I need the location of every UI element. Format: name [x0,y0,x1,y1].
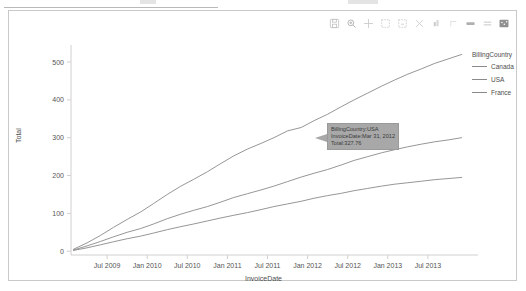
plot-area[interactable]: 0100200300400500Jul 2009Jan 2010Jul 2010… [9,33,518,281]
top-edge-ghost-left [140,0,156,4]
tooltip-line-total: Total:327.76 [331,140,395,147]
legend-label-france: France [491,89,511,96]
zoom-in-icon[interactable] [345,17,357,29]
legend[interactable]: BillingCountry Canada USA France [472,51,526,101]
series-line-usa[interactable] [73,54,461,249]
x-tick-label: Jul 2011 [255,262,281,269]
legend-item-france[interactable]: France [472,88,526,96]
y-axis-title: Total [15,128,22,143]
x-tick-label: Jul 2012 [334,262,361,269]
legend-swatch-usa [472,79,487,80]
logo-icon[interactable] [498,17,510,29]
legend-title: BillingCountry [472,51,526,58]
hover-compare-icon[interactable] [464,17,476,29]
tooltip-line-country: BillingCountry:USA [331,126,395,133]
move-icon[interactable] [362,17,374,29]
x-tick-label: Jan 2013 [373,262,402,269]
y-tick-label: 300 [52,134,64,141]
autoscale-icon[interactable] [430,17,442,29]
y-tick-label: 100 [52,210,64,217]
box-select-icon[interactable] [379,17,391,29]
y-tick-label: 200 [52,172,64,179]
tooltip-line-date: InvoiceDate:Mar 31, 2012 [331,133,395,140]
x-tick-label: Jul 2013 [415,262,442,269]
lasso-select-icon[interactable] [396,17,408,29]
spike-lines-icon[interactable] [447,17,459,29]
plotly-modebar[interactable] [328,16,510,30]
hover-tooltip: BillingCountry:USA InvoiceDate:Mar 31, 2… [327,123,399,150]
tooltip-pointer [315,134,327,142]
screenshot-top-edge [0,0,526,9]
legend-swatch-france [472,92,487,93]
legend-label-usa: USA [491,76,504,83]
line-chart-svg[interactable]: 0100200300400500Jul 2009Jan 2010Jul 2010… [9,33,518,281]
y-tick-label: 0 [60,248,64,255]
top-edge-rule [4,7,218,8]
x-tick-label: Jan 2012 [293,262,322,269]
legend-label-canada: Canada [491,63,514,70]
hover-closest-icon[interactable] [481,17,493,29]
chart-panel: 0100200300400500Jul 2009Jan 2010Jul 2010… [8,10,517,281]
legend-swatch-canada [472,66,487,67]
x-tick-label: Jan 2011 [213,262,241,269]
x-tick-label: Jan 2010 [133,262,162,269]
top-edge-ghost-right [348,0,378,4]
series-line-canada[interactable] [73,138,461,250]
x-tick-label: Jul 2010 [174,262,201,269]
reset-axes-icon[interactable] [413,17,425,29]
legend-item-canada[interactable]: Canada [472,62,526,70]
legend-item-usa[interactable]: USA [472,75,526,83]
x-tick-label: Jul 2009 [94,262,121,269]
y-tick-label: 500 [52,59,64,66]
y-tick-label: 400 [52,96,64,103]
save-icon[interactable] [328,17,340,29]
x-axis-title: InvoiceDate [9,275,518,282]
